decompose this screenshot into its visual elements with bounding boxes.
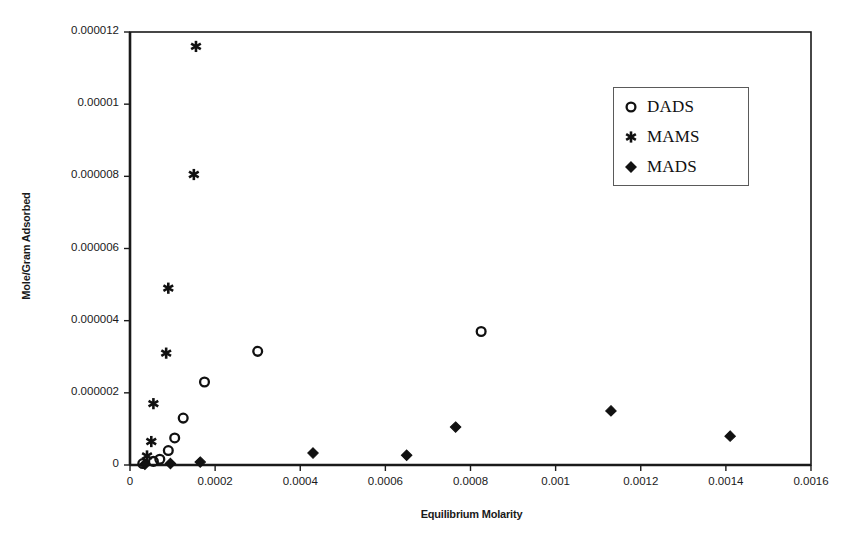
- plot-canvas: [0, 0, 857, 548]
- data-point: [606, 406, 616, 416]
- x-tick-label: 0: [85, 475, 175, 487]
- legend-label: DADS: [647, 97, 694, 117]
- data-point: [149, 398, 159, 409]
- x-axis-title: Equilibrium Molarity: [130, 508, 813, 520]
- data-point: [164, 446, 173, 455]
- data-point: [138, 459, 147, 468]
- data-point: [477, 327, 486, 336]
- data-point: [163, 283, 173, 294]
- scatter-chart-figure: 00.0000020.0000040.0000060.0000080.00001…: [0, 0, 857, 548]
- data-point: [170, 434, 179, 443]
- legend-marker-glyph: [627, 103, 636, 112]
- data-point: [165, 458, 175, 468]
- series-mads: [140, 406, 736, 470]
- data-point: [140, 459, 150, 469]
- legend-label: MAMS: [647, 127, 700, 147]
- open-circle-icon: [624, 100, 638, 114]
- legend-label: MADS: [647, 157, 697, 177]
- data-point: [155, 455, 164, 464]
- data-point: [149, 457, 158, 466]
- y-tick-label: 0: [9, 457, 119, 469]
- data-point: [401, 450, 411, 460]
- y-tick-label: 0.00001: [9, 96, 119, 108]
- x-tick-label: 0.001: [511, 475, 601, 487]
- legend-marker-glyph: [626, 131, 636, 142]
- x-tick-label: 0.0014: [681, 475, 771, 487]
- data-point: [189, 169, 199, 180]
- legend-item-mads[interactable]: MADS: [624, 154, 697, 180]
- x-tick-label: 0.0008: [426, 475, 516, 487]
- x-tick-label: 0.0004: [255, 475, 345, 487]
- data-point: [142, 450, 152, 461]
- x-tick-label: 0.0016: [766, 475, 856, 487]
- y-tick-label: 0.000012: [9, 24, 119, 36]
- y-tick-label: 0.000002: [9, 385, 119, 397]
- data-point: [308, 448, 318, 458]
- data-point: [200, 378, 209, 387]
- legend-item-dads[interactable]: DADS: [624, 94, 694, 120]
- legend-marker-glyph: [626, 162, 636, 172]
- x-tick-label: 0.0006: [340, 475, 430, 487]
- y-axis-title: Mole/Gram Adsorbed: [20, 146, 32, 346]
- data-point: [146, 436, 156, 447]
- data-point: [191, 41, 201, 52]
- x-tick-label: 0.0002: [170, 475, 260, 487]
- data-point: [195, 457, 205, 467]
- asterisk-icon: [624, 130, 638, 144]
- data-point: [253, 347, 262, 356]
- data-point: [161, 348, 171, 359]
- filled-diamond-icon: [624, 160, 638, 174]
- data-point: [725, 431, 735, 441]
- x-tick-label: 0.0012: [596, 475, 686, 487]
- chart-legend: DADSMAMSMADS: [613, 87, 749, 186]
- data-point: [450, 422, 460, 432]
- series-dads: [138, 327, 485, 468]
- data-point: [179, 414, 188, 423]
- legend-item-mams[interactable]: MAMS: [624, 124, 700, 150]
- series-mams: [142, 41, 201, 462]
